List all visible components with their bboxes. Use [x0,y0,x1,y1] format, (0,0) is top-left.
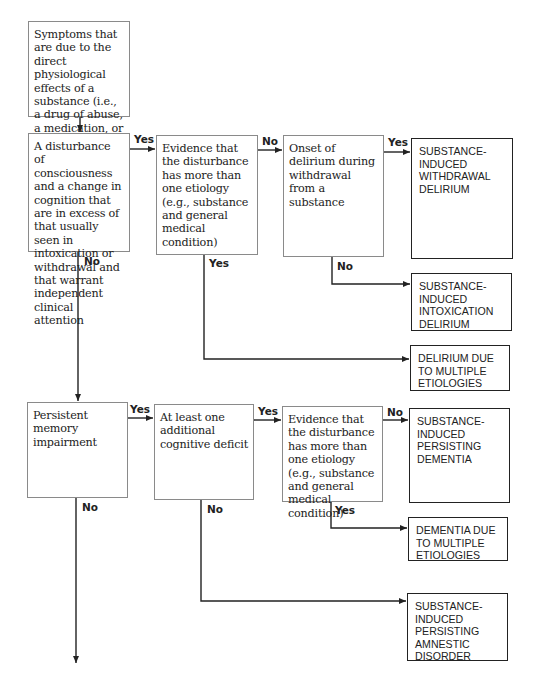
edge-label-yes: Yes [388,136,408,148]
node-text: Symptoms that are due to the direct phys… [34,28,123,148]
outcome-text: DELIRIUM DUE TO MULTIPLE ETIOLOGIES [418,352,494,389]
outcome-intoxication-delirium: SUBSTANCE-INDUCED INTOXICATION DELIRIUM [411,273,512,331]
edge-label-no: No [262,135,278,147]
edge-label-no: No [84,255,100,267]
outcome-text: SUBSTANCE-INDUCED PERSISTING DEMENTIA [417,415,485,465]
edge-label-yes: Yes [258,405,278,417]
edge-label-yes: Yes [134,133,154,145]
outcome-dementia-multiple-etiologies: DEMENTIA DUE TO MULTIPLE ETIOLOGIES [408,517,508,561]
node-onset-withdrawal: Onset of delirium during withdrawal from… [283,135,384,257]
node-substance-effects: Symptoms that are due to the direct phys… [28,21,130,117]
outcome-persisting-dementia: SUBSTANCE-INDUCED PERSISTING DEMENTIA [409,408,510,503]
outcome-withdrawal-delirium: SUBSTANCE-INDUCED WITHDRAWAL DELIRIUM [411,138,513,259]
node-text: Persistent memory impairment [33,409,97,449]
outcome-text: SUBSTANCE-INDUCED PERSISTING AMNESTIC DI… [415,600,483,662]
edge-label-no: No [82,501,98,513]
node-disturbance-consciousness: A disturbance of consciousness and a cha… [28,133,130,252]
node-text: Onset of delirium during withdrawal from… [289,142,375,209]
edge-label-no: No [207,503,223,515]
node-text: At least one additional cognitive defici… [160,411,248,451]
outcome-text: DEMENTIA DUE TO MULTIPLE ETIOLOGIES [416,524,495,561]
edge-label-no: No [387,406,403,418]
node-additional-cognitive-deficit: At least one additional cognitive defici… [154,404,254,500]
outcome-delirium-multiple-etiologies: DELIRIUM DUE TO MULTIPLE ETIOLOGIES [410,345,510,391]
edge-label-yes: Yes [335,504,355,516]
node-evidence-dementia-etiology: Evidence that the disturbance has more t… [282,406,383,502]
node-text: Evidence that the disturbance has more t… [162,142,248,249]
edge-label-yes: Yes [209,257,229,269]
outcome-text: SUBSTANCE-INDUCED INTOXICATION DELIRIUM [419,280,493,330]
outcome-text: SUBSTANCE-INDUCED WITHDRAWAL DELIRIUM [419,145,490,195]
edge-label-yes: Yes [130,403,150,415]
outcome-persisting-amnestic-disorder: SUBSTANCE-INDUCED PERSISTING AMNESTIC DI… [407,593,508,661]
node-memory-impairment: Persistent memory impairment [27,402,128,498]
node-evidence-delirium-etiology: Evidence that the disturbance has more t… [156,135,258,255]
edge-label-no: No [337,260,353,272]
